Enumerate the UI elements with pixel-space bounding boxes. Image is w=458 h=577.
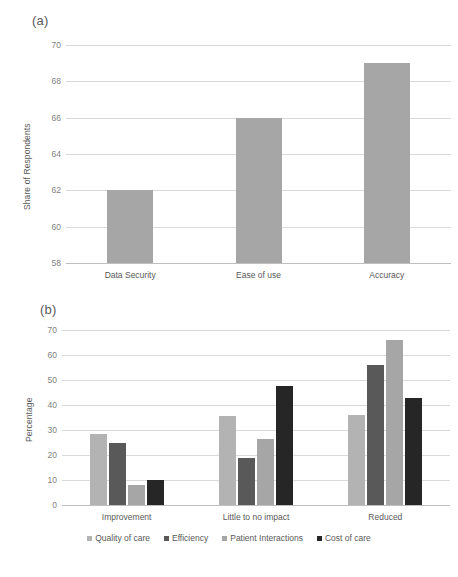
y-axis-tick-label: 62 [52,185,61,195]
gridline: 70 [62,330,450,331]
legend-item[interactable]: Quality of care [87,533,150,543]
bar [367,365,384,505]
legend-item-label: Quality of care [95,533,150,543]
gridline: 58 [66,263,451,264]
legend-item-label: Cost of care [325,533,371,543]
y-axis-tick-label: 20 [48,450,57,460]
bar [364,63,410,263]
x-axis-category-label: Reduced [368,512,402,522]
y-axis-tick-label: 10 [48,475,57,485]
x-axis-category-label: Little to no impact [223,512,290,522]
bar [236,118,282,263]
bar [348,415,365,505]
y-axis-tick-label: 66 [52,113,61,123]
legend-item-label: Patient Interactions [230,533,303,543]
y-axis-tick-label: 70 [48,325,57,335]
y-axis-title-a: Share of Respondents [22,123,32,210]
bar [276,386,293,505]
chart-panel-a: (a) Share of Respondents 58606264666870 … [0,0,458,290]
y-axis-tick-label: 30 [48,425,57,435]
y-axis-tick-label: 60 [48,350,57,360]
y-axis-tick-label: 58 [52,258,61,268]
bar [109,443,126,506]
legend-swatch-icon [222,536,227,541]
legend-item[interactable]: Cost of care [317,533,371,543]
y-axis-tick-label: 64 [52,149,61,159]
x-axis-category-label: Data Security [105,270,156,280]
x-axis-category-label: Improvement [102,512,152,522]
chart-panel-b: (b) Percentage 010203040506070 Improveme… [0,290,458,577]
bar [128,485,145,505]
gridline: 70 [66,45,451,46]
legend-swatch-icon [317,536,322,541]
bar [147,480,164,505]
x-axis-category-label: Accuracy [369,270,404,280]
plot-area-b: 010203040506070 [62,330,450,505]
y-axis-tick-label: 68 [52,76,61,86]
y-axis-tick-label: 70 [52,40,61,50]
bar [238,458,255,506]
chart-legend-b: Quality of careEfficiencyPatient Interac… [0,533,458,543]
plot-area-a: 58606264666870 [66,45,451,263]
y-axis-tick-label: 0 [52,500,57,510]
legend-item[interactable]: Patient Interactions [222,533,303,543]
legend-swatch-icon [87,536,92,541]
bar [90,434,107,505]
y-axis-tick-label: 60 [52,222,61,232]
y-axis-tick-label: 50 [48,375,57,385]
panel-label-a: (a) [32,13,49,28]
legend-item-label: Efficiency [172,533,208,543]
y-axis-title-b: Percentage [24,398,34,442]
panel-label-b: (b) [40,302,57,317]
bar [386,340,403,505]
figure-root: (a) Share of Respondents 58606264666870 … [0,0,458,577]
legend-item[interactable]: Efficiency [164,533,208,543]
legend-swatch-icon [164,536,169,541]
gridline: 0 [62,505,450,506]
bar [107,190,153,263]
bar [219,416,236,505]
y-axis-tick-label: 40 [48,400,57,410]
bar [257,439,274,505]
bar [405,398,422,506]
x-axis-category-label: Ease of use [236,270,281,280]
